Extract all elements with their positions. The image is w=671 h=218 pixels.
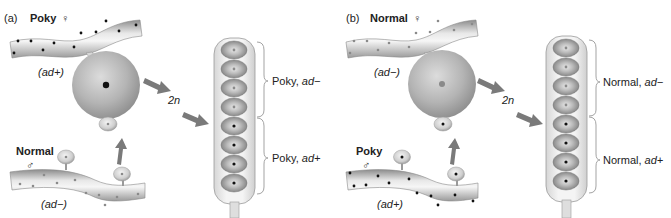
panel-a-letter: (a) <box>4 12 17 24</box>
arrow-to-zygote-icon <box>143 78 171 94</box>
panel-a: (a) Poky ♀ (ad+) Normal <box>4 12 321 218</box>
panel-a-upper-result: Poky, ad− <box>272 75 321 87</box>
up-arrow-icon <box>115 138 127 165</box>
female-symbol-icon: ♀ <box>61 12 69 24</box>
panel-b: (b) Normal ♀ (ad−) Poky ♂ <box>346 12 664 218</box>
panel-b-male-strain: Poky <box>356 145 383 157</box>
panel-a-zygote-label: 2n <box>167 94 180 106</box>
arrow-to-ascus-icon <box>182 112 209 127</box>
ascus <box>546 36 587 218</box>
normal-nucleus <box>439 81 445 87</box>
panel-b-lower-result: Normal, ad+ <box>603 154 664 166</box>
female-hypha <box>10 20 142 58</box>
panel-b-letter: (b) <box>346 12 359 24</box>
poky-nucleus <box>103 82 109 88</box>
poky-cross-diagram: (a) Poky ♀ (ad+) Normal <box>0 0 671 218</box>
male-symbol-icon: ♂ <box>26 159 34 171</box>
brace-lower <box>589 117 600 193</box>
male-symbol-icon: ♂ <box>362 159 370 171</box>
panel-b-female-genotype: (ad−) <box>374 66 400 78</box>
panel-a-female-strain: Poky <box>30 12 57 24</box>
up-arrow-icon <box>448 138 460 165</box>
panel-b-female-strain: Normal <box>370 12 408 24</box>
brace-upper <box>257 42 268 117</box>
arrow-to-zygote-icon <box>477 78 505 94</box>
panel-a-lower-result: Poky, ad+ <box>272 152 321 164</box>
panel-b-zygote-label: 2n <box>501 94 514 106</box>
panel-b-upper-result: Normal, ad− <box>603 76 664 88</box>
brace-lower <box>257 118 268 194</box>
panel-a-male-genotype: (ad−) <box>41 198 67 210</box>
panel-a-male-strain: Normal <box>16 145 54 157</box>
brace-upper <box>589 40 600 116</box>
arrow-to-ascus-icon <box>516 112 543 127</box>
panel-a-female-genotype: (ad+) <box>38 66 64 78</box>
female-hypha <box>346 20 478 58</box>
panel-b-male-genotype: (ad+) <box>377 198 403 210</box>
ascus <box>214 38 255 218</box>
female-symbol-icon: ♀ <box>413 12 421 24</box>
